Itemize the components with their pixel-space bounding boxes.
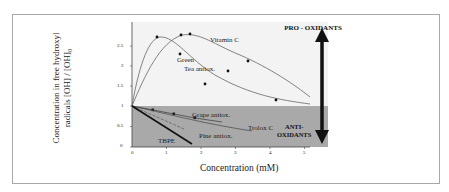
xtick-5: 5 — [303, 150, 306, 155]
anti-oxidants-label-line-1: ANTI- — [277, 123, 311, 131]
ytick-1: 1 — [121, 103, 124, 108]
label-vitamin-c: Vitamin C — [210, 36, 239, 44]
label-grape: Grape antiox. — [192, 111, 230, 119]
ytick-1-5: 1.5 — [117, 83, 123, 88]
xtick-0: 0 — [131, 150, 134, 155]
label-trolox: Trolox C — [248, 124, 273, 132]
ytick-2-5: 2.5 — [117, 43, 123, 48]
y-axis-label: Concentration in free hydroxyl radicals … — [51, 32, 73, 143]
xtick-2: 2 — [200, 150, 203, 155]
pro-oxidants-label: PRO - OXIDANTS — [284, 24, 342, 32]
label-tbpe: TBPE — [158, 137, 175, 145]
anti-oxidants-label-line-2: OXIDANTS — [277, 131, 311, 139]
y-axis-label-line-2: radicals [OH] / [OH]₀ — [62, 32, 73, 143]
pro-oxidant-region — [132, 22, 328, 106]
ytick-2: 2 — [121, 63, 124, 68]
xtick-3: 3 — [234, 150, 237, 155]
label-pine: Pine antiox. — [199, 132, 232, 140]
xtick-4: 4 — [269, 150, 272, 155]
xtick-1: 1 — [165, 150, 168, 155]
ytick-0: 0 — [120, 143, 123, 148]
ytick-0-5: 0.5 — [117, 123, 123, 128]
label-tea-antiox: Tea antiox. — [184, 65, 215, 73]
x-axis-label: Concentration (mM) — [200, 163, 278, 173]
anti-oxidants-label: ANTI- OXIDANTS — [277, 123, 311, 139]
label-green: Green — [177, 56, 194, 64]
y-axis-label-line-1: Concentration in free hydroxyl — [51, 32, 62, 143]
